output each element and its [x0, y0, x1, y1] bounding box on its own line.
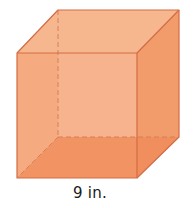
edge-length-label: 9 in.	[0, 184, 180, 202]
cube-diagram	[0, 0, 195, 208]
